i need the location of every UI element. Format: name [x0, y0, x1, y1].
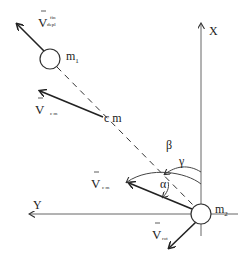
v-cm-lower-label: V c m [91, 172, 109, 191]
svg-text:fin: fin [50, 15, 56, 20]
mass-m1-circle [40, 49, 60, 69]
svg-text:V: V [35, 102, 45, 117]
cm-label: c m [104, 111, 122, 125]
svg-text:depl: depl [47, 22, 56, 27]
svg-text:V: V [91, 176, 101, 191]
svg-text:rot: rot [162, 236, 168, 241]
v-cm-upper-label: V c m [35, 98, 57, 117]
m1-label: m1 [66, 49, 79, 65]
alpha-label: α [160, 177, 167, 191]
svg-text:V: V [152, 227, 162, 242]
svg-text:c m: c m [102, 185, 109, 190]
physics-diagram: m1 m2 c m X Y V depl fin V c m V c m V r… [0, 0, 248, 263]
v-rot-label: V rot [152, 223, 168, 242]
beta-label: β [166, 138, 172, 152]
y-axis-label: Y [33, 198, 42, 212]
gamma-label: γ [178, 154, 185, 168]
m2-label: m2 [215, 202, 228, 218]
svg-text:c m: c m [50, 111, 57, 116]
v-rot-arrow [169, 222, 196, 248]
mass-m2-circle [191, 204, 211, 224]
v-depl-fin-label: V depl fin [38, 11, 56, 30]
m1-m2-dashed-line [57, 67, 194, 206]
x-axis-label: X [209, 24, 218, 38]
